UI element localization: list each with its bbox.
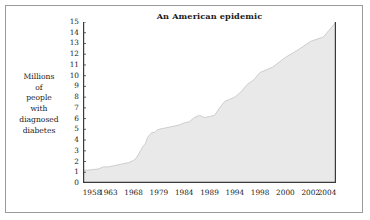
y-tick-label: 2 (74, 158, 79, 165)
x-tick-label: 1963 (99, 189, 118, 196)
y-axis-label-line: diagnosed (12, 115, 66, 126)
y-axis-label-line: with (12, 104, 66, 115)
x-tick-label: 1998 (251, 189, 270, 196)
y-axis-label: Millions of people with diagnosed diabet… (12, 72, 66, 136)
y-tick-label: 12 (70, 51, 79, 58)
y-tick-label: 13 (70, 40, 79, 47)
y-axis-label-line: of (12, 83, 66, 94)
plot-area (83, 22, 336, 183)
y-axis-label-line: diabetes (12, 126, 66, 137)
x-tick-label: 1989 (200, 189, 219, 196)
area-chart-svg (83, 22, 336, 183)
page-title: An American epidemic (83, 11, 336, 21)
x-tick-label: 1984 (175, 189, 194, 196)
y-tick-label: 9 (74, 83, 79, 90)
chart-figure: An American epidemic Millions of people … (0, 0, 370, 220)
y-tick-label: 1 (74, 169, 79, 176)
y-tick-label: 10 (70, 72, 79, 79)
y-tick-label: 3 (74, 147, 79, 154)
y-tick-label: 5 (74, 126, 79, 133)
y-axis-label-line: Millions (12, 72, 66, 83)
y-tick-label: 4 (74, 136, 79, 143)
x-tick-label: 2000 (276, 189, 295, 196)
y-tick-label: 15 (70, 18, 79, 25)
x-tick-label: 2004 (318, 189, 337, 196)
y-tick-label: 0 (74, 179, 79, 186)
y-tick-label: 14 (70, 29, 79, 36)
x-tick-label: 1968 (124, 189, 143, 196)
x-axis-ticks: 1958196319681979198419891994199820002002… (83, 189, 336, 201)
y-tick-label: 8 (74, 93, 79, 100)
y-tick-label: 11 (70, 61, 79, 68)
y-axis-label-line: people (12, 93, 66, 104)
x-tick-label: 1994 (226, 189, 245, 196)
y-tick-label: 6 (74, 115, 79, 122)
area-series-fill (83, 22, 336, 183)
y-tick-label: 7 (74, 104, 79, 111)
y-axis-ticks: 1514131211109876543210 (62, 22, 79, 183)
x-tick-label: 1979 (150, 189, 169, 196)
